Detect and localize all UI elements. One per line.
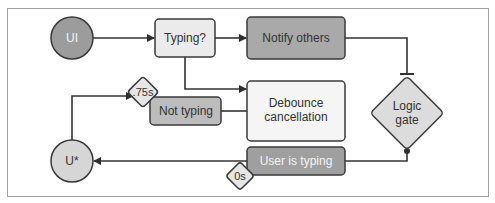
node-debounce-line2: cancellation — [264, 110, 327, 124]
node-debounce-line1: Debounce — [269, 96, 324, 110]
node-ui-label: UI — [66, 31, 78, 45]
node-typing-label: Typing? — [164, 31, 206, 45]
node-user-is-typing: User is typing — [247, 147, 345, 175]
node-logic-gate-line1: Logic — [393, 99, 422, 113]
node-typing: Typing? — [155, 19, 215, 57]
connector-dot — [404, 148, 410, 154]
node-not-typing-label: Not typing — [159, 104, 213, 118]
node-user-is-typing-label: User is typing — [260, 154, 333, 168]
node-u-star-label: U* — [65, 154, 79, 168]
node-logic-gate-line2: gate — [395, 113, 419, 127]
node-notify-others: Notify others — [247, 17, 345, 59]
node-not-typing: Not typing — [150, 97, 221, 125]
node-debounce-cancellation: Debounce cancellation — [247, 81, 345, 141]
node-delay-75s-label: .75s — [133, 86, 154, 98]
debounce-flow-diagram: UI Typing? Notify others Debounce cancel… — [0, 0, 495, 203]
node-delay-0s-label: 0s — [234, 170, 246, 182]
node-ui: UI — [51, 17, 93, 59]
node-notify-others-label: Notify others — [262, 31, 329, 45]
node-u-star: U* — [51, 140, 93, 182]
